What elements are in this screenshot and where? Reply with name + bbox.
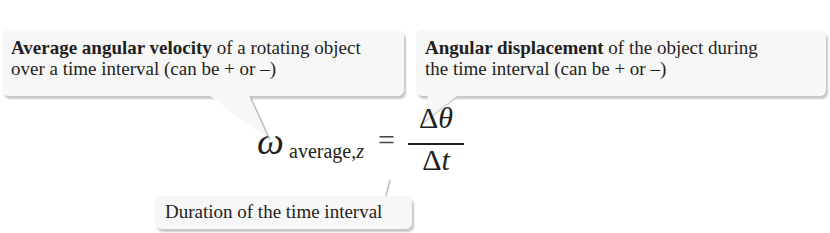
callout-text: of a rotating object — [212, 37, 361, 58]
callout-line-1: Average angular velocity of a rotating o… — [11, 37, 394, 58]
denominator: Δt — [407, 143, 465, 177]
callout-line-1: Angular displacement of the object durin… — [425, 37, 816, 58]
callout-duration: Duration of the time interval — [155, 196, 412, 229]
theta-symbol: θ — [438, 101, 453, 134]
omega-symbol: ω — [257, 119, 284, 163]
term-angular-displacement: Angular displacement — [425, 37, 604, 58]
omega-subscript: average,z — [289, 140, 364, 163]
angular-velocity-formula: ω average,z = Δθ Δt — [257, 105, 417, 175]
delta-symbol: Δ — [422, 143, 441, 176]
subscript-text: average, — [289, 140, 356, 162]
numerator: Δθ — [407, 101, 465, 135]
callout-average-angular-velocity: Average angular velocity of a rotating o… — [2, 30, 404, 96]
term-average-angular-velocity: Average angular velocity — [11, 37, 212, 58]
callout-angular-displacement: Angular displacement of the object durin… — [416, 30, 826, 96]
equals-sign: = — [378, 123, 395, 157]
callout-text: Duration of the time interval — [165, 201, 382, 222]
pointer-to-delta-t — [378, 178, 398, 198]
subscript-var: z — [356, 140, 364, 162]
callout-line-2: the time interval (can be + or –) — [425, 58, 816, 79]
callout-line-2: over a time interval (can be + or –) — [11, 58, 394, 79]
t-symbol: t — [441, 143, 449, 176]
callout-text: of the object during — [604, 37, 758, 58]
delta-symbol: Δ — [419, 101, 438, 134]
